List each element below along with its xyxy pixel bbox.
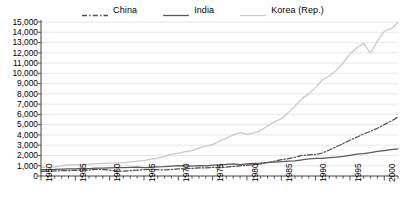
x-axis-label: 1965 — [148, 163, 156, 182]
legend-item-korea[interactable]: Korea (Rep.) — [240, 5, 324, 15]
x-axis-label: 1970 — [182, 163, 190, 182]
x-axis-label: 1975 — [216, 163, 224, 182]
legend-item-india[interactable]: India — [163, 5, 214, 15]
legend-label-korea: Korea (Rep.) — [271, 5, 324, 15]
legend-swatch-korea-icon — [240, 6, 266, 15]
x-axis-label: 1985 — [285, 163, 293, 182]
legend-swatch-india-icon — [163, 6, 189, 15]
legend-item-china[interactable]: China — [82, 5, 137, 15]
x-axis-label: 2000 — [388, 163, 396, 182]
x-axis-label: 1955 — [79, 163, 87, 182]
legend-swatch-china-icon — [82, 6, 108, 15]
plot-area: 01,0002,0003,0004,0005,0006,0007,0008,00… — [0, 18, 406, 215]
chart-legend: China India Korea (Rep.) — [0, 2, 406, 18]
legend-label-india: India — [194, 5, 214, 15]
x-axis-label: 1995 — [354, 163, 362, 182]
x-axis-label: 1950 — [45, 163, 53, 182]
line-chart: China India Korea (Rep.) 01,0002,0003,00… — [0, 0, 406, 215]
legend-label-china: China — [113, 5, 137, 15]
x-axis-label: 1980 — [251, 163, 259, 182]
x-axis-tick-labels: 1950195519601965197019751980198519901995… — [0, 18, 406, 215]
x-axis-label: 1990 — [319, 163, 327, 182]
x-axis-label: 1960 — [113, 163, 121, 182]
